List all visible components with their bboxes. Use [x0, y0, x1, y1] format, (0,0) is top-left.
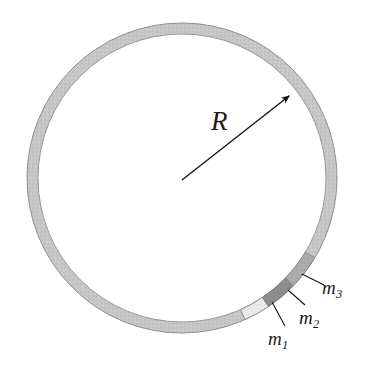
radius-arrow [182, 96, 289, 180]
leader-line-m3 [302, 274, 324, 285]
radius-label: R [211, 108, 228, 135]
segment-m3 [286, 252, 315, 286]
leader-line-m1 [272, 302, 285, 326]
mass-label-m2: m2 [299, 308, 319, 330]
mass-label-m2-base: m [299, 307, 313, 328]
ring-inner-edge [38, 34, 326, 322]
radius-label-base: R [211, 106, 228, 136]
mass-label-m3-base: m [322, 277, 336, 298]
segment-m2 [263, 278, 294, 306]
mass-label-m3: m3 [322, 278, 342, 300]
mass-label-m1: m1 [268, 329, 288, 351]
mass-label-m1-base: m [268, 328, 282, 349]
figure-canvas: R m1 m2 m3 [0, 0, 371, 368]
mass-label-m2-subscript: 2 [313, 317, 319, 331]
mass-label-m3-subscript: 3 [336, 287, 342, 301]
leader-line-m2 [288, 290, 305, 305]
mass-label-m1-subscript: 1 [282, 338, 288, 352]
